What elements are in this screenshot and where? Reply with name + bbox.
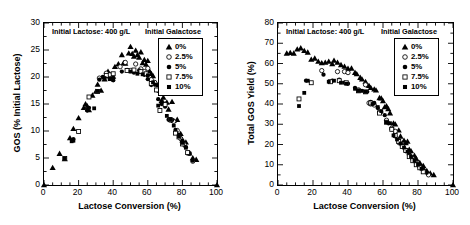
legend-item-7-5[interactable]: 7.5% xyxy=(163,72,197,82)
x-tick-label: 20 xyxy=(73,188,82,197)
y-tick-label: 20 xyxy=(31,72,40,81)
y-tick-label: 40 xyxy=(265,99,274,108)
annotation-initial-lactose-left: Initial Lactose: 400 g/L xyxy=(52,27,130,36)
legend-item-label: 2.5% xyxy=(174,52,193,62)
y-tick-label: 70 xyxy=(265,38,274,47)
x-tick-label: 60 xyxy=(377,188,386,197)
x-tick-label: 40 xyxy=(107,188,116,197)
chart-panel-left: 051015202530 020406080100 GOS (% Initial… xyxy=(0,0,235,225)
x-axis-title-right: Lactose Conversion (%) xyxy=(277,201,452,211)
legend-item-label: 7.5% xyxy=(174,72,193,82)
filled-triangle-icon xyxy=(163,42,174,52)
x-tick-label: 40 xyxy=(342,188,351,197)
filled-square-icon xyxy=(399,82,410,92)
y-tick-label: 10 xyxy=(265,159,274,168)
y-tick-label: 25 xyxy=(31,45,40,54)
y-tick-label: 30 xyxy=(31,18,40,27)
open-square-icon xyxy=(163,72,174,82)
figure-container: 051015202530 020406080100 GOS (% Initial… xyxy=(0,0,470,225)
filled-triangle-icon xyxy=(399,42,410,52)
x-tick-label: 100 xyxy=(445,188,459,197)
y-tick-label: 20 xyxy=(265,139,274,148)
y-tick-label: 80 xyxy=(265,18,274,27)
legend-item-0[interactable]: 0% xyxy=(399,42,433,52)
legend-item-label: 0% xyxy=(410,42,422,52)
legend-title-left: Initial Galactose xyxy=(145,27,201,36)
legend-item-label: 5% xyxy=(410,62,422,72)
legend-item-5[interactable]: 5% xyxy=(399,62,433,72)
y-axis-title-right: Total GOS Yield (%) xyxy=(246,61,256,144)
x-tick-label: 60 xyxy=(142,188,151,197)
y-axis-title-left: GOS (% Initial Lactose) xyxy=(12,53,22,152)
legend-item-0[interactable]: 0% xyxy=(163,42,197,52)
legend-item-2-5[interactable]: 2.5% xyxy=(399,52,433,62)
chart-panel-right: 01020304050607080 020406080100 Total GOS… xyxy=(235,0,470,225)
x-tick-label: 100 xyxy=(209,188,223,197)
annotation-initial-lactose-right: Initial Lactose: 400 g/L xyxy=(286,27,364,36)
legend-item-7-5[interactable]: 7.5% xyxy=(399,72,433,82)
x-tick-label: 80 xyxy=(412,188,421,197)
legend-box-left: 0%2.5%5%7.5%10% xyxy=(158,38,203,96)
legend-item-label: 0% xyxy=(174,42,186,52)
legend-item-10[interactable]: 10% xyxy=(163,82,197,92)
legend-box-right: 0%2.5%5%7.5%10% xyxy=(394,38,439,96)
legend-item-label: 10% xyxy=(174,82,191,92)
y-tick-label: 30 xyxy=(265,119,274,128)
legend-item-label: 5% xyxy=(174,62,186,72)
open-circle-icon xyxy=(163,52,174,62)
legend-item-10[interactable]: 10% xyxy=(399,82,433,92)
y-tick-label: 0 xyxy=(269,180,274,189)
y-tick-label: 60 xyxy=(265,58,274,67)
x-tick-label: 0 xyxy=(41,188,46,197)
legend-item-2-5[interactable]: 2.5% xyxy=(163,52,197,62)
legend-item-5[interactable]: 5% xyxy=(163,62,197,72)
y-tick-label: 5 xyxy=(35,153,40,162)
filled-circle-icon xyxy=(399,62,410,72)
legend-item-label: 2.5% xyxy=(410,52,429,62)
filled-circle-icon xyxy=(163,62,174,72)
legend-title-right: Initial Galactose xyxy=(381,27,437,36)
y-tick-label: 15 xyxy=(31,99,40,108)
x-tick-label: 0 xyxy=(275,188,280,197)
open-circle-icon xyxy=(399,52,410,62)
x-tick-label: 20 xyxy=(307,188,316,197)
y-tick-label: 50 xyxy=(265,78,274,87)
legend-item-label: 10% xyxy=(410,82,427,92)
open-square-icon xyxy=(399,72,410,82)
y-tick-label: 0 xyxy=(35,180,40,189)
filled-square-icon xyxy=(163,82,174,92)
x-axis-title-left: Lactose Conversion (%) xyxy=(43,201,216,211)
legend-item-label: 7.5% xyxy=(410,72,429,82)
x-tick-label: 80 xyxy=(177,188,186,197)
y-tick-label: 10 xyxy=(31,126,40,135)
